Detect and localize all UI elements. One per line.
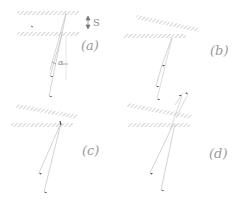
- panel-c: [11, 104, 78, 192]
- panel-label-b: (b): [210, 43, 228, 58]
- reflected-ray-2: [49, 14, 66, 96]
- upper-layer: [17, 11, 79, 15]
- small-tick-icon: [31, 26, 33, 27]
- reflected-ray-2: [157, 38, 172, 99]
- lower-layer: [17, 32, 79, 36]
- panel-a: [17, 11, 90, 96]
- separation-label: S: [93, 17, 100, 28]
- lower-layer: [124, 34, 186, 38]
- reflected-ray-1: [39, 123, 61, 173]
- panel-label-d: (d): [209, 146, 227, 161]
- tilted-upper-layer: [136, 15, 199, 32]
- diagram-canvas: [0, 0, 244, 200]
- panel-b: [124, 15, 199, 118]
- separation-arrow: [86, 16, 90, 29]
- lower-layer: [128, 123, 190, 127]
- lower-layer: [11, 123, 73, 127]
- reflected-ray-2: [44, 123, 61, 192]
- reflected-ray-2: [161, 124, 175, 190]
- panel-label-a: (a): [81, 38, 99, 53]
- incident-ray: [162, 38, 172, 65]
- reflected-ray-1: [50, 34, 62, 76]
- panel-label-c: (c): [82, 143, 99, 158]
- angle-label: α: [58, 58, 63, 67]
- tilted-upper-layer: [16, 104, 78, 119]
- incident-ray: [175, 93, 183, 105]
- panel-d: [127, 93, 192, 190]
